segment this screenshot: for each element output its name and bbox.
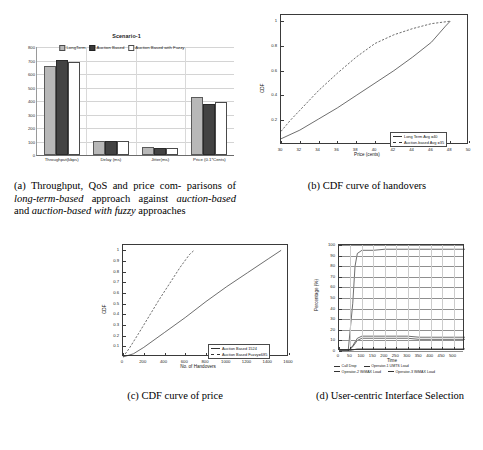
chart-b-ytick	[281, 46, 284, 47]
chart-d-xtick	[431, 347, 432, 350]
chart-d-xtick	[339, 347, 340, 350]
chart-b-ytick-label: 0.4	[258, 92, 277, 97]
chart-c-xtick-label: 1200	[242, 359, 251, 364]
chart-b-ytick	[281, 95, 284, 96]
chart-a-ytick-label: 100	[28, 139, 35, 144]
chart-d-xtick-label: 500	[449, 353, 456, 358]
chart-c-legend-line	[211, 354, 220, 355]
chart-a-bar	[117, 141, 129, 155]
chart-d-axes-frame	[338, 244, 464, 350]
chart-c-ytick	[123, 282, 126, 283]
chart-c-curves	[123, 245, 289, 357]
chart-d-ytick-label: 100	[312, 242, 335, 247]
chart-d-xtick-label: 50	[347, 353, 352, 358]
chart-b-xtick-label: 46	[428, 147, 433, 152]
chart-d-ytick-label: 80	[312, 263, 335, 268]
caption-a-line4: approaches	[136, 205, 186, 216]
chart-d-ytick	[339, 266, 342, 267]
chart-a-bar-group: Jitter(ms)	[136, 47, 185, 155]
chart-c-ytick-label: 0.6	[100, 290, 119, 295]
chart-b-ytick	[281, 120, 284, 121]
chart-b-legend-line	[393, 142, 402, 143]
figure-page: Scenario-1 0100200300400500600700800Thro…	[0, 0, 483, 450]
chart-a-legend-item: Auction Based with Fuzzy	[128, 45, 184, 51]
chart-c-ytick	[123, 261, 126, 262]
chart-a-bar	[166, 148, 178, 155]
chart-d-xtick	[373, 347, 374, 350]
chart-b-xtick	[319, 141, 320, 144]
chart-d-vgridline	[396, 245, 397, 349]
chart-d-ytick-label: 60	[312, 284, 335, 289]
chart-c-xtick	[123, 353, 124, 356]
chart-a-title: Scenario-1	[16, 33, 237, 39]
chart-d-hgridline	[339, 309, 463, 310]
chart-d-ytick-label: 0	[312, 348, 335, 353]
chart-d-xtick-label: 150	[369, 353, 376, 358]
chart-b-xtick-label: 44	[409, 147, 414, 152]
subfigure-a-bar-chart: Scenario-1 0100200300400500600700800Thro…	[16, 33, 237, 173]
chart-a-plot-area: 0100200300400500600700800Throughput(kbps…	[36, 47, 234, 156]
chart-c-xtick-label: 1000	[221, 359, 230, 364]
chart-a-xtick-label: Throughput(kbps)	[45, 157, 79, 162]
chart-a-legend-label: LongTerm	[66, 45, 85, 50]
chart-a-bar	[56, 60, 68, 155]
chart-a-legend-label: Auction Based with Fuzzy	[135, 45, 184, 50]
chart-d-legend-line	[388, 371, 394, 372]
chart-d-xtick	[362, 347, 363, 350]
chart-b-series-line	[281, 21, 450, 131]
chart-a-ytick-label: 700	[28, 58, 35, 63]
chart-b-ytick	[281, 71, 284, 72]
chart-c-ytick-label: 0.3	[100, 322, 119, 327]
chart-c-axes-frame	[122, 244, 288, 356]
chart-a-xtick-label: Price (0.1*Cents)	[193, 157, 226, 162]
chart-d-ytick-label: 70	[312, 273, 335, 278]
chart-c-xtick-label: 800	[202, 359, 209, 364]
chart-c-series-line	[123, 250, 281, 357]
chart-b-xtick	[337, 141, 338, 144]
chart-d-hgridline	[339, 266, 463, 267]
chart-a-xtick-label: Jitter(ms)	[151, 157, 169, 162]
chart-b-legend-item: Long Term Avg =40	[393, 134, 444, 139]
chart-b-xtick	[375, 141, 376, 144]
chart-d-xaxis-label: Time	[312, 358, 472, 363]
chart-d-vgridline	[442, 245, 443, 349]
chart-a-bar	[142, 147, 154, 155]
chart-d-legend-row: Call DropOperator-1 UMTS Load	[334, 364, 435, 368]
chart-d-legend-line	[334, 366, 340, 367]
chart-d-hgridline	[339, 330, 463, 331]
chart-b-xtick	[356, 141, 357, 144]
chart-b-xaxis-label: Price (cents)	[258, 152, 476, 157]
chart-d-vgridline	[431, 245, 432, 349]
chart-a-bar	[44, 66, 56, 155]
chart-b-series-line	[281, 21, 450, 139]
chart-c-xaxis-label: No. of Handovers	[100, 364, 296, 369]
chart-a-xtick-label: Delay (ms)	[100, 157, 121, 162]
chart-d-ytick-label: 40	[312, 305, 335, 310]
chart-d-vgridline	[362, 245, 363, 349]
chart-d-ytick	[339, 298, 342, 299]
subfigure-b-cdf-handovers: Price (cents) CDF Long Term Avg =40Aucti…	[258, 6, 476, 170]
chart-d-ytick	[339, 277, 342, 278]
chart-b-ytick-label: 0.8	[258, 42, 277, 47]
chart-d-legend-label: Call Drop	[342, 364, 357, 368]
caption-a-line2b: approach	[83, 193, 130, 204]
chart-b-xtick-label: 30	[278, 147, 283, 152]
chart-c-xtick	[185, 353, 186, 356]
chart-b-xtick-label: 34	[315, 147, 320, 152]
chart-d-xtick	[408, 347, 409, 350]
chart-c-ytick-label: 0.1	[100, 343, 119, 348]
chart-c-ytick	[123, 293, 126, 294]
chart-b-xtick-label: 50	[466, 147, 471, 152]
chart-d-legend-row: Operator-2 WiMAX LoadOperator-3 WiMAX Lo…	[334, 370, 435, 374]
chart-a-ytick-label: 0	[33, 153, 35, 158]
chart-b-xtick-label: 36	[334, 147, 339, 152]
chart-a-bar	[215, 102, 227, 155]
chart-d-ytick	[339, 256, 342, 257]
chart-c-xtick-label: 1600	[283, 359, 292, 364]
chart-d-vgridline	[385, 245, 386, 349]
chart-d-ytick-label: 90	[312, 252, 335, 257]
chart-d-xtick-label: 300	[403, 353, 410, 358]
chart-a-ytick-label: 600	[28, 72, 35, 77]
chart-d-ytick	[339, 309, 342, 310]
caption-a-line2a: parisons of	[187, 180, 236, 191]
